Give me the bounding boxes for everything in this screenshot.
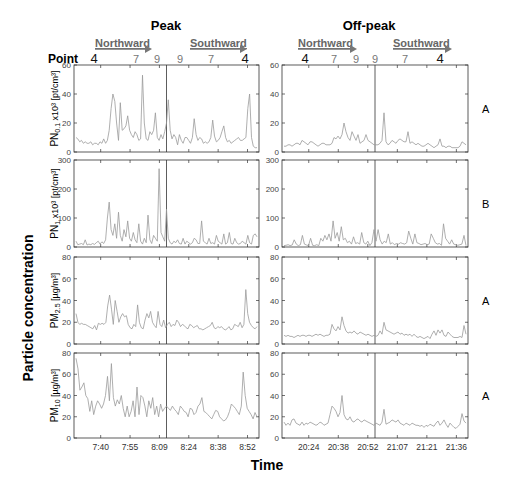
y-tick-label: 100 bbox=[266, 214, 280, 223]
significance-label: B bbox=[482, 198, 489, 210]
point-marker: 4 bbox=[436, 51, 443, 66]
panels: 02040600204060PN0.1 x10³ [pt/cm³]A010020… bbox=[49, 61, 490, 443]
y-tick-label: 20 bbox=[270, 119, 279, 128]
arrow-right-icon bbox=[350, 45, 357, 53]
y-tick-label: 0 bbox=[275, 434, 280, 443]
particle-concentration-chart: Peak Off-peak Northward Southward Northw… bbox=[0, 0, 507, 490]
title-offpeak: Off-peak bbox=[343, 18, 397, 33]
x-tick-label: 7:55 bbox=[122, 442, 139, 452]
y-tick-label: 20 bbox=[62, 413, 71, 422]
x-tick-label: 21:07 bbox=[387, 442, 409, 452]
point-marker: 7 bbox=[331, 53, 337, 65]
point-marker: 9 bbox=[177, 53, 183, 65]
point-marker: 9 bbox=[353, 53, 359, 65]
panel-PM10-peak: 020406080 bbox=[62, 349, 259, 443]
y-axis-label: PM10 [µg/m³] bbox=[49, 369, 61, 422]
y-axis-label: PN1 x10³ [pt/cm³] bbox=[49, 168, 61, 238]
x-tick-label: 21:21 bbox=[416, 442, 438, 452]
x-axis-title: Time bbox=[251, 457, 284, 473]
point-marker: 9 bbox=[154, 53, 160, 65]
significance-label: A bbox=[482, 103, 490, 115]
y-tick-label: 40 bbox=[270, 90, 279, 99]
y-axis-label: PM2.5 [µg/m³] bbox=[49, 273, 61, 328]
y-tick-label: 0 bbox=[67, 243, 72, 252]
y-tick-label: 20 bbox=[62, 318, 71, 327]
y-tick-label: 0 bbox=[275, 340, 280, 349]
x-tick-label: 8:38 bbox=[210, 442, 227, 452]
point-markers-peak: 479974 bbox=[90, 51, 248, 66]
panel-PN1-peak: 0100200300 bbox=[58, 156, 259, 252]
y-tick-label: 40 bbox=[62, 392, 71, 401]
panel-PM10-offpeak: 020406080 bbox=[270, 349, 468, 443]
x-tick-label: 7:40 bbox=[92, 442, 109, 452]
y-tick-label: 80 bbox=[62, 349, 71, 358]
panel-PN01-offpeak: 0204060 bbox=[270, 61, 468, 157]
y-tick-label: 60 bbox=[62, 275, 71, 284]
southward-label: Southward bbox=[393, 37, 450, 49]
point-marker: 4 bbox=[90, 51, 97, 66]
panel-PN1-offpeak: 0100200300 bbox=[266, 156, 468, 252]
y-tick-label: 80 bbox=[270, 253, 279, 262]
y-tick-label: 0 bbox=[67, 340, 72, 349]
y-tick-label: 300 bbox=[266, 156, 280, 165]
direction-northward-peak: Northward bbox=[95, 37, 152, 53]
y-tick-label: 60 bbox=[62, 61, 71, 70]
southward-label: Southward bbox=[190, 37, 247, 49]
direction-southward-peak: Southward bbox=[190, 37, 247, 53]
y-tick-label: 40 bbox=[270, 392, 279, 401]
point-marker: 4 bbox=[301, 51, 308, 66]
y-tick-label: 40 bbox=[62, 90, 71, 99]
y-tick-label: 40 bbox=[270, 297, 279, 306]
point-marker: 7 bbox=[402, 53, 408, 65]
y-tick-label: 200 bbox=[266, 185, 280, 194]
panel-PM25-peak: 020406080 bbox=[62, 253, 259, 349]
significance-label: A bbox=[482, 390, 490, 402]
y-tick-label: 60 bbox=[270, 61, 279, 70]
point-marker: 7 bbox=[133, 53, 139, 65]
northward-label: Northward bbox=[95, 37, 150, 49]
y-axis-title: Particle concentration bbox=[20, 234, 36, 381]
y-tick-label: 60 bbox=[270, 275, 279, 284]
x-tick-label: 20:38 bbox=[328, 442, 350, 452]
y-tick-label: 0 bbox=[275, 243, 280, 252]
y-tick-label: 60 bbox=[62, 370, 71, 379]
x-tick-labels: 7:407:558:098:248:388:5220:2420:3820:522… bbox=[92, 442, 467, 452]
point-marker: 7 bbox=[208, 53, 214, 65]
y-tick-label: 20 bbox=[270, 413, 279, 422]
x-tick-label: 20:52 bbox=[357, 442, 379, 452]
x-tick-label: 8:24 bbox=[181, 442, 198, 452]
x-tick-label: 20:24 bbox=[298, 442, 320, 452]
panel-PM25-offpeak: 020406080 bbox=[270, 253, 468, 349]
y-tick-label: 60 bbox=[270, 370, 279, 379]
point-markers-offpeak: 479974 bbox=[301, 51, 443, 66]
y-tick-label: 20 bbox=[62, 119, 71, 128]
point-marker: 9 bbox=[372, 53, 378, 65]
y-axis-label: PN0.1 x10³ [pt/cm³] bbox=[49, 70, 61, 146]
panel-PN01-peak: 0204060 bbox=[62, 61, 259, 157]
x-tick-label: 21:36 bbox=[446, 442, 468, 452]
significance-label: A bbox=[482, 295, 490, 307]
point-marker: 4 bbox=[241, 51, 248, 66]
x-tick-label: 8:09 bbox=[151, 442, 168, 452]
y-tick-label: 80 bbox=[62, 253, 71, 262]
northward-label: Northward bbox=[298, 37, 353, 49]
y-tick-label: 40 bbox=[62, 297, 71, 306]
x-tick-label: 8:52 bbox=[239, 442, 256, 452]
title-peak: Peak bbox=[151, 18, 182, 33]
y-tick-label: 20 bbox=[270, 318, 279, 327]
y-tick-label: 0 bbox=[67, 434, 72, 443]
y-tick-label: 300 bbox=[58, 156, 72, 165]
y-tick-label: 80 bbox=[270, 349, 279, 358]
